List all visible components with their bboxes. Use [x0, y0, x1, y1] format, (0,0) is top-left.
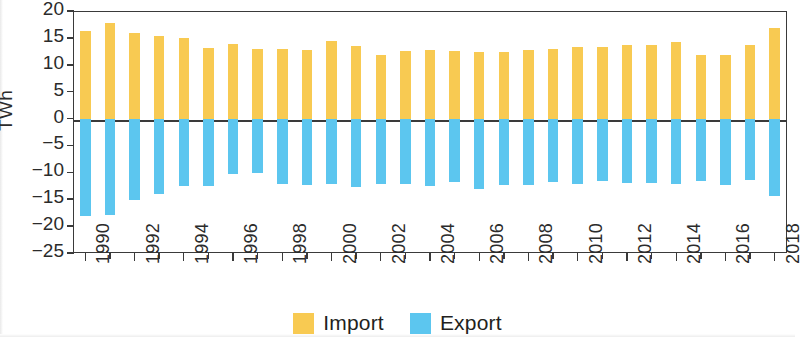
bar-export-2006 — [474, 119, 485, 189]
x-axis-tick-label: 2018 — [783, 223, 804, 264]
y-axis-tick — [67, 10, 74, 12]
x-axis-tick-label: 2014 — [684, 223, 705, 264]
y-axis-tick — [67, 64, 74, 66]
bar-import-2005 — [449, 51, 460, 119]
bar-import-1997 — [252, 49, 263, 118]
y-axis-tick — [67, 37, 74, 39]
bar-export-2014 — [671, 119, 682, 184]
legend-item-export[interactable]: Export — [410, 311, 502, 335]
bar-export-2015 — [696, 119, 707, 182]
x-axis-tick — [380, 253, 381, 261]
bar-import-2001 — [351, 46, 362, 118]
bar-export-1996 — [228, 119, 239, 175]
x-axis-tick — [528, 253, 529, 261]
x-axis-tick — [282, 253, 283, 261]
bar-export-1999 — [302, 119, 313, 186]
bar-export-2012 — [622, 119, 633, 183]
bar-export-1992 — [129, 119, 140, 201]
y-axis-tick — [67, 252, 74, 254]
y-axis-tick — [67, 91, 74, 93]
x-axis-tick-label: 1994 — [192, 223, 213, 264]
y-axis-tick-label: −10 — [14, 159, 64, 181]
x-axis-tick-label: 2004 — [438, 223, 459, 264]
bar-import-2004 — [425, 50, 436, 119]
bar-import-1993 — [154, 36, 165, 118]
y-axis-tick-label: 5 — [14, 79, 64, 101]
bar-export-1998 — [277, 119, 288, 185]
bar-export-2008 — [523, 119, 534, 185]
x-axis-tick — [134, 253, 135, 261]
x-axis-tick-label: 1990 — [93, 223, 114, 264]
y-axis-tick-label: −15 — [14, 186, 64, 208]
bar-export-2005 — [449, 119, 460, 182]
legend-item-import[interactable]: Import — [293, 311, 384, 335]
bar-export-1991 — [105, 119, 116, 215]
y-axis-tick — [67, 118, 74, 120]
bar-export-2017 — [745, 119, 756, 180]
bar-import-2009 — [548, 49, 559, 119]
y-axis-tick — [67, 145, 74, 147]
x-axis-tick — [725, 253, 726, 261]
bar-import-1990 — [80, 31, 91, 119]
bar-export-1994 — [179, 119, 190, 187]
x-axis-tick-label: 1998 — [290, 223, 311, 264]
y-axis-tick — [67, 225, 74, 227]
x-axis-tick — [479, 253, 480, 261]
x-axis-tick — [183, 253, 184, 261]
bar-export-1990 — [80, 119, 91, 217]
bar-import-1998 — [277, 49, 288, 118]
bar-import-2002 — [376, 55, 387, 119]
x-axis-tick-label: 2002 — [389, 223, 410, 264]
bar-export-1995 — [203, 119, 214, 187]
bar-import-2006 — [474, 52, 485, 118]
bar-import-1995 — [203, 48, 214, 119]
chart-legend: ImportExport — [0, 311, 795, 335]
y-axis-tick-label: 10 — [14, 52, 64, 74]
bar-export-2004 — [425, 119, 436, 186]
legend-swatch-import — [293, 313, 314, 334]
y-axis-tick-label: −25 — [14, 240, 64, 262]
bar-import-2016 — [720, 55, 731, 119]
bar-export-2003 — [400, 119, 411, 185]
x-axis-tick-label: 2016 — [733, 223, 754, 264]
bar-import-2003 — [400, 51, 411, 119]
bar-import-2018 — [769, 28, 780, 118]
x-axis-tick-label: 1996 — [241, 223, 262, 264]
bar-export-2011 — [597, 119, 608, 182]
bar-import-1996 — [228, 44, 239, 118]
bar-import-2014 — [671, 42, 682, 118]
bar-export-2001 — [351, 119, 362, 188]
x-axis-tick — [774, 253, 775, 261]
bar-export-2018 — [769, 119, 780, 196]
x-axis-tick — [85, 253, 86, 261]
y-axis-tick — [67, 198, 74, 200]
x-axis-tick — [429, 253, 430, 261]
bar-export-2009 — [548, 119, 559, 182]
bar-import-2000 — [326, 41, 337, 119]
y-axis-tick-label: 15 — [14, 25, 64, 47]
bar-import-1999 — [302, 50, 313, 119]
y-axis-tick-label: −5 — [14, 132, 64, 154]
bar-export-2000 — [326, 119, 337, 184]
bar-import-2017 — [745, 45, 756, 118]
bar-import-1991 — [105, 23, 116, 119]
bar-import-2008 — [523, 50, 534, 118]
x-axis-tick-label: 2000 — [340, 223, 361, 264]
bar-export-1997 — [252, 119, 263, 174]
x-axis-tick — [331, 253, 332, 261]
scan-edge-left — [0, 0, 3, 337]
bar-import-2010 — [572, 47, 583, 119]
bar-import-1992 — [129, 33, 140, 119]
bar-import-2007 — [499, 52, 510, 119]
bar-export-2010 — [572, 119, 583, 184]
y-axis-tick-label: 0 — [14, 106, 64, 128]
x-axis-tick — [626, 253, 627, 261]
bar-export-2002 — [376, 119, 387, 185]
x-axis-tick-label: 2008 — [536, 223, 557, 264]
bar-export-1993 — [154, 119, 165, 195]
y-axis-tick-label: −20 — [14, 213, 64, 235]
x-axis-tick-label: 2012 — [635, 223, 656, 264]
x-axis-tick-label: 2010 — [586, 223, 607, 264]
bar-export-2013 — [646, 119, 657, 184]
